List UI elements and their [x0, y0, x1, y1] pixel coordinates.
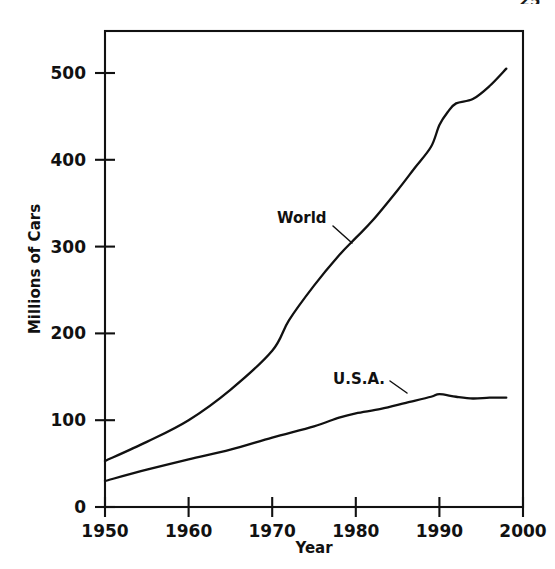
y-tick-label: 200: [51, 323, 87, 343]
x-tick-label: 1990: [416, 521, 463, 541]
y-tick-label: 400: [51, 150, 87, 170]
page-number: 25: [519, 0, 541, 4]
series-label-usa: U.S.A.: [333, 370, 385, 388]
y-tick-label: 0: [74, 497, 86, 517]
y-tick-label: 300: [51, 237, 87, 257]
series-line-world: [105, 69, 506, 461]
x-tick-label: 1950: [81, 521, 128, 541]
leader-line-world: [333, 226, 352, 243]
series-line-usa: [105, 394, 506, 481]
figure-container: 25 0100200300400500 19501960197019801990…: [0, 0, 555, 569]
leader-line-usa: [390, 381, 407, 393]
line-chart: 0100200300400500 19501960197019801990200…: [0, 0, 555, 569]
series-label-world: World: [277, 209, 327, 227]
x-tick-label: 1970: [249, 521, 296, 541]
x-tick-label: 2000: [499, 521, 546, 541]
y-tick-label: 100: [51, 410, 87, 430]
x-axis-title: Year: [294, 539, 333, 557]
y-axis-tick-labels: 0100200300400500: [51, 63, 87, 517]
x-tick-label: 1980: [332, 521, 379, 541]
x-tick-label: 1960: [165, 521, 212, 541]
y-tick-label: 500: [51, 63, 87, 83]
x-axis-tick-labels: 195019601970198019902000: [81, 521, 546, 541]
y-axis-title: Millions of Cars: [26, 204, 44, 334]
